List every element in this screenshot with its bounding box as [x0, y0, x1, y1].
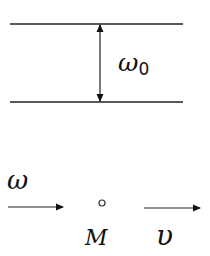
gap-label-symbol: ω — [118, 48, 138, 77]
gap-label: ω0 — [118, 48, 149, 79]
gap-label-subscript: 0 — [138, 59, 149, 79]
velocity-label: υ — [156, 219, 173, 252]
point-m-marker — [99, 200, 105, 206]
incoming-label: ω — [7, 165, 28, 195]
diagram-canvas: ω0 ω M υ — [0, 0, 210, 256]
point-m-label: M — [84, 225, 108, 250]
